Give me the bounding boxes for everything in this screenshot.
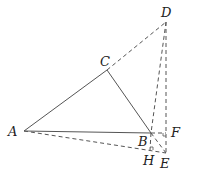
label-f: F — [170, 125, 181, 140]
label-c: C — [100, 54, 110, 69]
label-a: A — [7, 124, 17, 139]
label-e: E — [159, 156, 170, 171]
segment-bh — [150, 133, 151, 150]
segment-ac — [24, 70, 107, 131]
segment-cb — [107, 70, 151, 133]
label-h: H — [142, 153, 155, 168]
segment-ab — [24, 131, 151, 133]
label-d: D — [160, 5, 172, 20]
segment-db — [151, 22, 166, 133]
label-b: B — [137, 134, 148, 149]
segment-cd — [107, 22, 166, 70]
geometry-figure: A B C D E F H — [0, 0, 197, 179]
